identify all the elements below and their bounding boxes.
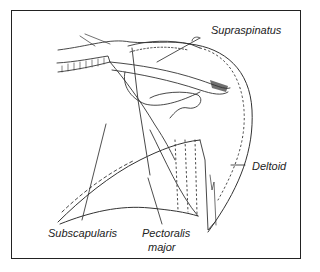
label-deltoid: Deltoid [252,160,286,173]
label-pectoralis-major-line1: Pectoralis [142,227,190,240]
label-subscapularis: Subscapularis [48,227,117,240]
label-supraspinatus: Supraspinatus [211,24,281,37]
label-pectoralis-major-line2: major [148,241,176,254]
